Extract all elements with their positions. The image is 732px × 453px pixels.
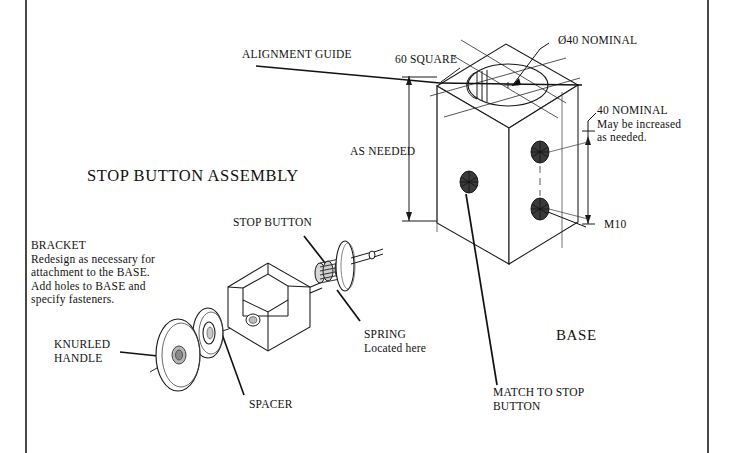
base-block	[437, 44, 578, 264]
bracket	[228, 263, 310, 351]
label-spacer: SPACER	[249, 398, 293, 412]
leader-spacer	[222, 334, 244, 395]
label-match-line1: MATCH TO STOP	[493, 386, 584, 400]
page-title: STOP BUTTON ASSEMBLY	[87, 166, 299, 185]
label-base: BASE	[556, 327, 597, 345]
note-bracket-line4: specify fasteners.	[31, 293, 155, 307]
label-stop-button: STOP BUTTON	[233, 216, 312, 230]
label-match-line2: BUTTON	[493, 400, 584, 414]
drawing-sheet: ALIGNMENT GUIDE 60 SQUARE Ø40 NOMINAL 40…	[0, 0, 732, 453]
leader-alignment-guide	[256, 66, 440, 83]
label-m10: M10	[604, 218, 626, 232]
note-bracket-line2: attachment to the BASE.	[31, 266, 155, 280]
label-as-needed: AS NEEDED	[350, 145, 415, 159]
note-40-nominal-line2: May be increased	[597, 118, 681, 132]
bolt-head-front-upper	[460, 171, 478, 193]
bolt-head-right-upper	[531, 141, 549, 163]
label-match-to-stop-button: MATCH TO STOP BUTTON	[493, 386, 584, 413]
bracket-hole	[246, 314, 260, 326]
knurled-handle	[156, 319, 200, 391]
note-bracket: BRACKET Redesign as necessary for attach…	[31, 239, 155, 307]
stop-button-stem	[351, 249, 383, 264]
label-alignment-guide: ALIGNMENT GUIDE	[242, 48, 352, 62]
leader-knurled-handle	[120, 352, 158, 356]
note-bracket-heading: BRACKET	[31, 239, 155, 253]
note-bracket-line3: Add holes to BASE and	[31, 280, 155, 294]
note-40-nominal: 40 NOMINAL May be increased as needed.	[597, 104, 681, 145]
label-spring: SPRING Located here	[364, 328, 426, 355]
label-knurled-handle-line1: KNURLED	[54, 338, 110, 352]
leader-spring	[337, 290, 360, 321]
note-bracket-line1: Redesign as necessary for	[31, 253, 155, 267]
stop-button-head	[336, 241, 355, 291]
label-diameter-40-nominal: Ø40 NOMINAL	[558, 34, 637, 48]
label-spring-line2: Located here	[364, 342, 426, 356]
label-60-square: 60 SQUARE	[395, 53, 457, 67]
note-40-nominal-line1: 40 NOMINAL	[597, 104, 681, 118]
bolt-head-right-lower	[531, 198, 549, 220]
leader-40-nominal-note	[588, 113, 596, 131]
label-knurled-handle-line2: HANDLE	[54, 352, 110, 366]
label-knurled-handle: KNURLED HANDLE	[54, 338, 110, 365]
label-spring-line1: SPRING	[364, 328, 426, 342]
note-40-nominal-line3: as needed.	[597, 131, 681, 145]
